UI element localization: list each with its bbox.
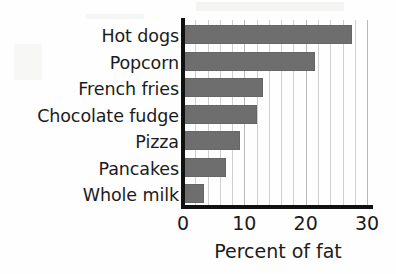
x-axis-title: Percent of fat [183,239,373,263]
category-label-pizza: Pizza [0,133,179,152]
bar [183,105,257,124]
bar [183,78,263,97]
bar [183,25,352,44]
x-axis-tick-labels: 0102030 [0,211,396,237]
bar [183,131,240,150]
bar [183,52,315,71]
x-tick-label-20: 20 [294,211,318,235]
bar-chart-figure: Hot dogsPopcornFrench friesChocolate fud… [0,0,396,274]
category-label-chocolate-fudge: Chocolate fudge [0,107,179,126]
gridline-30 [367,20,368,206]
x-axis-line [181,205,373,209]
x-tick-label-30: 30 [355,211,379,235]
category-label-whole-milk: Whole milk [0,186,179,205]
bar-series [183,20,367,206]
bar [183,184,204,203]
scan-artifact [86,14,144,19]
bar [183,158,226,177]
scan-artifact [196,2,344,11]
x-tick-label-10: 10 [232,211,256,235]
category-label-french-fries: French fries [0,80,179,99]
category-axis-labels: Hot dogsPopcornFrench friesChocolate fud… [0,22,179,208]
x-tick-label-0: 0 [177,211,189,235]
y-axis-line [181,18,185,208]
category-label-hot-dogs: Hot dogs [0,27,179,46]
plot-area [183,20,367,206]
category-label-pancakes: Pancakes [0,160,179,179]
category-label-popcorn: Popcorn [0,54,179,73]
